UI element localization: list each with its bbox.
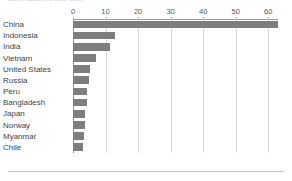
bar-row: [73, 86, 278, 97]
footer-divider: [8, 171, 284, 172]
plot-area: [73, 19, 278, 153]
bar-row: [73, 19, 278, 30]
category-label: Bangladesh: [3, 97, 70, 108]
bar-chart: 0102030405060 ChinaIndonesiaIndiaVietnam…: [0, 7, 292, 157]
x-tick-label: 20: [134, 7, 142, 16]
category-label: Chile: [3, 142, 70, 153]
bar-row: [73, 41, 278, 52]
x-axis: 0102030405060: [73, 7, 278, 19]
category-label: India: [3, 41, 70, 52]
category-label: China: [3, 19, 70, 30]
bar: [73, 121, 85, 129]
category-label: Peru: [3, 86, 70, 97]
category-label: Norway: [3, 120, 70, 131]
bar: [73, 21, 278, 29]
x-tick-label: 30: [166, 7, 174, 16]
bar: [73, 54, 96, 62]
category-label: Vietnam: [3, 53, 70, 64]
category-axis: ChinaIndonesiaIndiaVietnamUnited StatesR…: [0, 19, 70, 153]
bar: [73, 110, 85, 118]
x-tick-label: 50: [232, 7, 240, 16]
category-label: Russia: [3, 75, 70, 86]
bar-row: [73, 142, 278, 153]
bar: [73, 132, 84, 140]
x-tick-label: 60: [264, 7, 272, 16]
bar-row: [73, 131, 278, 142]
x-tick-label: 40: [199, 7, 207, 16]
category-label: Japan: [3, 108, 70, 119]
x-tick-label: 0: [71, 7, 75, 16]
bar-row: [73, 30, 278, 41]
bar-row: [73, 108, 278, 119]
bar: [73, 65, 90, 73]
bar: [73, 99, 87, 107]
bar-row: [73, 53, 278, 64]
bar-row: [73, 120, 278, 131]
category-label: Indonesia: [3, 30, 70, 41]
bar-row: [73, 64, 278, 75]
category-label: United States: [3, 64, 70, 75]
bar: [73, 88, 87, 96]
chart-caption: (cut-off caption text above chart): [8, 0, 248, 2]
bar-row: [73, 75, 278, 86]
bar-row: [73, 97, 278, 108]
category-label: Myanmar: [3, 131, 70, 142]
bar: [73, 32, 115, 40]
bar: [73, 143, 83, 151]
bar: [73, 76, 89, 84]
x-tick-label: 10: [101, 7, 109, 16]
bar: [73, 43, 110, 51]
